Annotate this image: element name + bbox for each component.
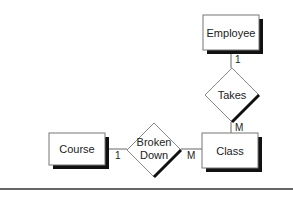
entity-label: Course <box>59 143 94 155</box>
cardinality-employee-takes: 1 <box>235 54 241 65</box>
relationship-takes: Takes <box>205 68 259 122</box>
er-diagram: Employee Takes Class Broken Down Course … <box>0 0 293 199</box>
relationship-broken-down: Broken Down <box>127 123 181 177</box>
entity-label: Employee <box>207 27 256 39</box>
cardinality-brokendown-class: M <box>187 150 195 161</box>
cardinality-takes-class: M <box>235 122 243 133</box>
relationship-label-line2: Down <box>140 149 168 161</box>
entity-course: Course <box>49 133 109 169</box>
relationship-label-line1: Broken <box>137 136 172 148</box>
entity-employee: Employee <box>203 15 263 54</box>
relationship-label: Takes <box>218 89 247 101</box>
entity-label: Class <box>216 145 244 157</box>
cardinality-course-brokendown: 1 <box>115 150 121 161</box>
entity-class: Class <box>202 133 262 172</box>
